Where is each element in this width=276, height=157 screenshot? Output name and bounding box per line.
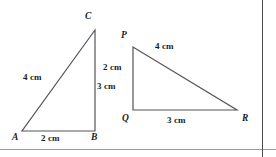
page-right-rule	[262, 0, 263, 157]
side-length-pr: 4 cm	[155, 42, 174, 51]
triangle-pqr-outline	[133, 47, 237, 110]
page-bottom-rule	[0, 149, 276, 150]
side-length-cb: 3 cm	[97, 82, 116, 91]
side-length-ac: 4 cm	[23, 73, 42, 82]
geometry-figure-canvas: A B C 4 cm 3 cm 2 cm P Q R 2 cm 4 cm 3 c…	[0, 0, 276, 157]
vertex-label-b: B	[91, 133, 98, 143]
side-length-ab: 2 cm	[41, 134, 60, 143]
side-length-qr: 3 cm	[167, 116, 186, 125]
vertex-label-c: C	[85, 12, 92, 22]
vertex-label-q: Q	[122, 114, 129, 124]
vertex-label-r: R	[242, 114, 249, 124]
vertex-label-a: A	[12, 133, 19, 143]
side-length-pq: 2 cm	[103, 63, 122, 72]
vertex-label-p: P	[121, 31, 127, 41]
